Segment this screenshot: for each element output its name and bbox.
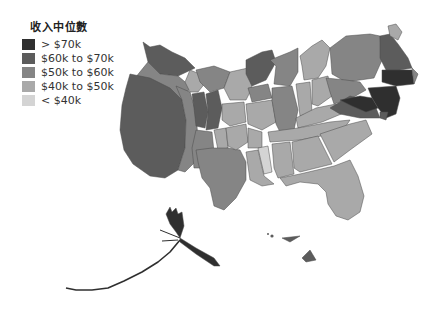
legend-label: $50k to $60k <box>41 66 114 79</box>
region-indiana <box>296 82 312 116</box>
region-oklahoma <box>226 124 248 150</box>
region-alabama <box>272 142 294 178</box>
legend-swatch <box>22 39 35 50</box>
region-wisconsin <box>270 48 298 86</box>
region-delaware <box>380 112 388 120</box>
region-colorado <box>206 90 222 130</box>
region-arkansas <box>248 128 262 148</box>
legend-item-gt70k: > $70k <box>22 37 114 51</box>
region-missouri <box>246 100 276 130</box>
region-massachusetts <box>382 70 414 86</box>
legend-item-50k-60k: $50k to $60k <box>22 65 114 79</box>
region-michigan <box>300 40 330 80</box>
legend-item-lt40k: < $40k <box>22 93 114 107</box>
legend-swatch <box>22 67 35 78</box>
legend-label: $60k to $70k <box>41 52 114 65</box>
legend-swatch <box>22 95 35 106</box>
legend-label: $40k to $50k <box>41 80 114 93</box>
region-alaska-aleutians <box>66 240 180 290</box>
legend-item-60k-70k: $60k to $70k <box>22 51 114 65</box>
legend-item-40k-50k: $40k to $50k <box>22 79 114 93</box>
legend: 收入中位數 > $70k $60k to $70k $50k to $60k $… <box>22 18 114 107</box>
region-texas <box>196 148 246 210</box>
legend-label: < $40k <box>41 94 81 107</box>
region-hawaii-big <box>302 250 316 262</box>
region-kansas <box>222 102 246 126</box>
region-minnesota <box>246 50 276 86</box>
region-hawaii-oahu <box>270 234 273 237</box>
region-maine <box>380 34 412 70</box>
legend-swatch <box>22 53 35 64</box>
region-alaska-arm <box>180 238 220 266</box>
legend-title: 收入中位數 <box>30 18 114 34</box>
region-hawaii-maui <box>282 236 300 242</box>
legend-swatch <box>22 81 35 92</box>
region-new-mexico <box>214 128 228 150</box>
region-hawaii-kauai <box>267 233 269 235</box>
legend-label: > $70k <box>41 38 81 51</box>
region-new-york <box>330 34 382 82</box>
